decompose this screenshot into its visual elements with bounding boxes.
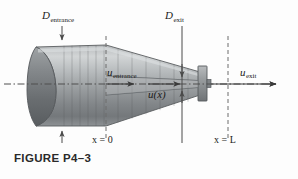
x-length-label: x = L — [214, 134, 236, 145]
d-exit-label: Dexit — [164, 9, 184, 24]
d-entrance-label: Dentrance — [41, 9, 74, 24]
u-x-label: u(x) — [148, 88, 166, 101]
x-origin-label: x = 0 — [92, 134, 113, 145]
figure-caption: FIGURE P4–3 — [14, 152, 91, 164]
u-exit-label: uexit — [240, 66, 256, 80]
figure-page: Dentrance Dexit uentrance u(x) uexit x =… — [0, 0, 298, 179]
